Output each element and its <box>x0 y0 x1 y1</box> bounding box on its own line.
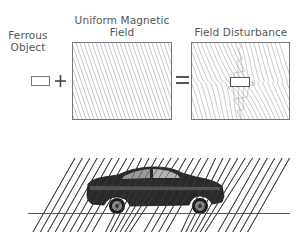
ferrous-object-icon <box>32 77 50 86</box>
equals-icon <box>176 77 189 83</box>
field-disturbance-box <box>133 43 305 120</box>
car-icon <box>87 167 224 214</box>
car-scene <box>28 158 290 232</box>
uniform-field-box <box>40 43 222 120</box>
magnetic-field-diagram <box>0 0 307 250</box>
plus-icon <box>55 75 66 87</box>
disturbed-object-icon <box>231 78 250 87</box>
